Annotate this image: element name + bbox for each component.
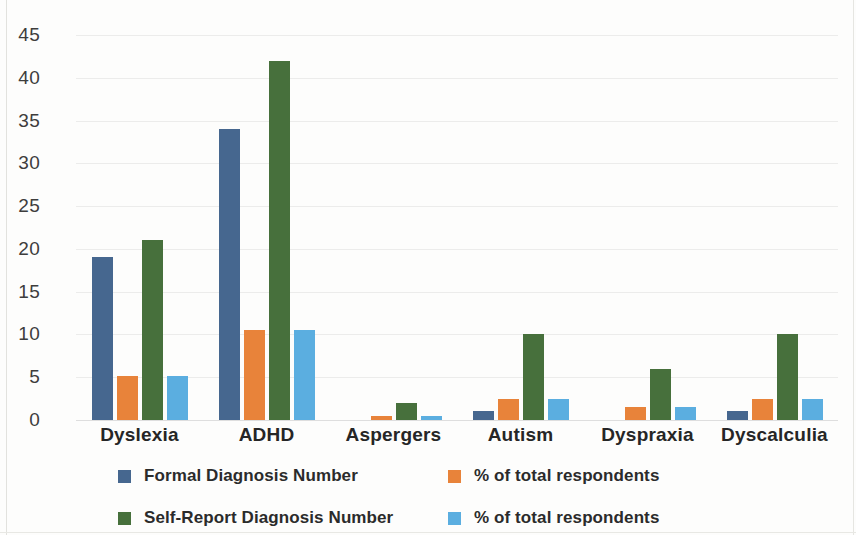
x-axis-label-dyscalculia: Dyscalculia bbox=[711, 424, 838, 446]
y-tick-label: 15 bbox=[0, 281, 40, 303]
square-swatch-icon bbox=[118, 512, 131, 525]
x-axis-label-autism: Autism bbox=[457, 424, 584, 446]
bar-chart: 454035302520151050 DyslexiaADHDAspergers… bbox=[0, 0, 856, 535]
legend-item-label: % of total respondents bbox=[474, 466, 659, 486]
bar-group-dyspraxia bbox=[584, 35, 711, 420]
bar-group-autism bbox=[457, 35, 584, 420]
bar bbox=[371, 416, 392, 420]
bar-group-aspergers bbox=[330, 35, 457, 420]
x-axis-label-adhd: ADHD bbox=[203, 424, 330, 446]
legend-item[interactable]: Formal Diagnosis Number bbox=[118, 466, 448, 486]
page-edge-right bbox=[853, 0, 854, 535]
bar bbox=[244, 330, 265, 420]
bar bbox=[650, 369, 671, 420]
gridline bbox=[76, 420, 838, 421]
y-tick-label: 20 bbox=[0, 238, 40, 260]
bar bbox=[498, 399, 519, 420]
x-axis-label-aspergers: Aspergers bbox=[330, 424, 457, 446]
y-tick-label: 30 bbox=[0, 152, 40, 174]
bar bbox=[473, 411, 494, 420]
bar-group-dyslexia bbox=[76, 35, 203, 420]
legend-item-label: % of total respondents bbox=[474, 508, 659, 528]
bar-group-dyscalculia bbox=[711, 35, 838, 420]
bar-group-adhd bbox=[203, 35, 330, 420]
bar bbox=[396, 403, 417, 420]
bar bbox=[294, 330, 315, 420]
legend-item-label: Self-Report Diagnosis Number bbox=[144, 508, 393, 528]
bar bbox=[802, 399, 823, 420]
bar bbox=[92, 257, 113, 420]
bar bbox=[727, 411, 748, 420]
legend-item[interactable]: Self-Report Diagnosis Number bbox=[118, 508, 448, 528]
y-tick-label: 35 bbox=[0, 110, 40, 132]
legend-item-label: Formal Diagnosis Number bbox=[144, 466, 358, 486]
legend-item[interactable]: % of total respondents bbox=[448, 466, 758, 486]
bar bbox=[421, 416, 442, 420]
plot-area: 454035302520151050 bbox=[76, 35, 838, 420]
y-tick-label: 5 bbox=[0, 366, 40, 388]
bar-groups bbox=[76, 35, 838, 420]
x-axis-label-dyspraxia: Dyspraxia bbox=[584, 424, 711, 446]
y-tick-label: 25 bbox=[0, 195, 40, 217]
y-tick-label: 40 bbox=[0, 67, 40, 89]
chart-legend: Formal Diagnosis Number% of total respon… bbox=[118, 466, 758, 528]
y-tick-label: 10 bbox=[0, 323, 40, 345]
bar bbox=[675, 407, 696, 420]
bar bbox=[548, 399, 569, 420]
bar bbox=[219, 129, 240, 420]
x-axis-label-dyslexia: Dyslexia bbox=[76, 424, 203, 446]
legend-item[interactable]: % of total respondents bbox=[448, 508, 758, 528]
square-swatch-icon bbox=[448, 470, 461, 483]
page-edge-bottom bbox=[0, 532, 856, 533]
y-tick-label: 0 bbox=[0, 409, 40, 431]
bar bbox=[142, 240, 163, 420]
square-swatch-icon bbox=[118, 470, 131, 483]
bar bbox=[625, 407, 646, 420]
x-axis-labels: DyslexiaADHDAspergersAutismDyspraxiaDysc… bbox=[76, 424, 838, 446]
bar bbox=[523, 334, 544, 420]
bar bbox=[269, 61, 290, 420]
bar bbox=[167, 376, 188, 420]
square-swatch-icon bbox=[448, 512, 461, 525]
bar bbox=[777, 334, 798, 420]
bar bbox=[117, 376, 138, 420]
y-tick-label: 45 bbox=[0, 24, 40, 46]
bar bbox=[752, 399, 773, 420]
